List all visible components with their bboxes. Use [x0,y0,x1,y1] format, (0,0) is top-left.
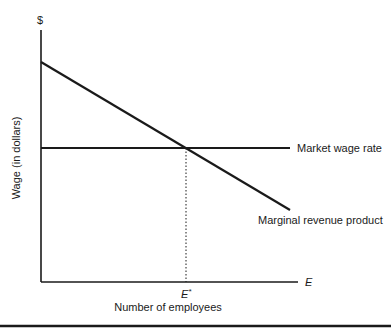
x-axis-label: Number of employees [114,301,222,313]
y-axis-label: Wage (in dollars) [10,117,22,200]
market-wage-label: Market wage rate [297,142,382,154]
marginal-revenue-product-line [41,62,290,210]
chart: $ E Wage (in dollars) Number of employee… [0,0,391,330]
equilibrium-tick-label: E* [181,287,192,300]
x-axis-symbol: E [305,276,313,288]
y-axis-symbol: $ [37,14,43,26]
mrp-label: Marginal revenue product [258,214,383,226]
